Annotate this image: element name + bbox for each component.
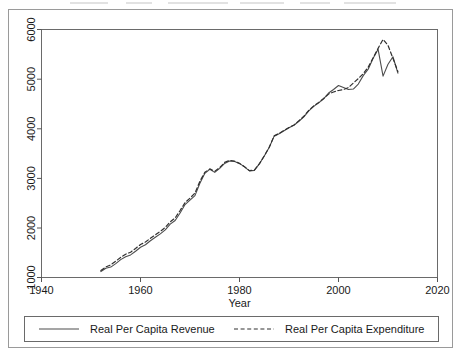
y-tick-label-2000: 2000 <box>25 216 37 240</box>
chart-figure: 1000 2000 3000 4000 5000 6000 1940 1960 … <box>0 0 462 357</box>
y-tick-label-3000: 3000 <box>25 166 37 190</box>
line-chart: 1000 2000 3000 4000 5000 6000 1940 1960 … <box>0 0 462 357</box>
x-tick-label-2000: 2000 <box>326 284 350 296</box>
legend-label-revenue: Real Per Capita Revenue <box>90 323 215 335</box>
x-tick-label-2020: 2020 <box>425 284 449 296</box>
y-tick-label-6000: 6000 <box>25 17 37 41</box>
x-axis-title: Year <box>228 297 251 309</box>
series-line-expenditure <box>101 39 398 270</box>
x-axis: 1940 1960 1980 2000 2020 Year <box>29 278 449 310</box>
x-tick-label-1940: 1940 <box>29 284 53 296</box>
chart-legend: Real Per Capita Revenue Real Per Capita … <box>25 317 439 342</box>
plot-area <box>42 30 438 278</box>
x-tick-label-1960: 1960 <box>128 284 152 296</box>
series-line-revenue <box>101 49 398 271</box>
legend-label-expenditure: Real Per Capita Expenditure <box>285 323 424 335</box>
y-tick-label-4000: 4000 <box>25 117 37 141</box>
x-tick-label-1980: 1980 <box>227 284 251 296</box>
y-tick-label-5000: 5000 <box>25 67 37 91</box>
y-axis: 1000 2000 3000 4000 5000 6000 <box>25 17 42 289</box>
